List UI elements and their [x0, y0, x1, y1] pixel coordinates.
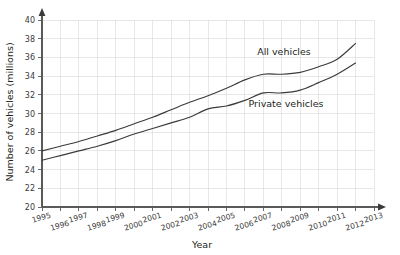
x-tick-label: 2001 — [141, 211, 162, 225]
x-tick-label: 2005 — [215, 211, 236, 225]
x-tick-label: 2012 — [344, 219, 365, 233]
x-axis-title: Year — [191, 239, 212, 250]
x-tick-label: 2009 — [289, 211, 310, 225]
x-tick-labels: 1995199619971998199920002001200220032004… — [31, 211, 384, 233]
x-tick-label: 1995 — [31, 211, 52, 225]
x-tick-label: 2011 — [326, 211, 347, 225]
x-tick-label: 2013 — [363, 211, 384, 225]
x-tick-label: 2004 — [197, 219, 218, 233]
x-tick-label: 1998 — [86, 219, 107, 233]
y-tick-label: 26 — [25, 147, 35, 156]
y-tick-label: 28 — [25, 128, 35, 137]
x-tick-label: 2007 — [252, 211, 273, 225]
series-annotations-group: All vehiclesPrivate vehicles — [249, 46, 324, 109]
series-annotation-private-vehicles: Private vehicles — [249, 98, 324, 109]
x-tick-label: 1997 — [68, 211, 89, 225]
vehicles-line-chart: 2022242628303234363840 19951996199719981… — [0, 0, 400, 255]
x-axis-arrow-icon — [378, 204, 386, 211]
y-tick-label: 36 — [25, 53, 35, 62]
x-tick-label: 1996 — [49, 219, 70, 233]
axis-lines — [39, 8, 386, 210]
y-tick-label: 24 — [25, 166, 35, 175]
x-tick-marks — [42, 207, 374, 211]
y-axis-title: Number of vehicles (millions) — [4, 42, 15, 181]
y-tick-label: 34 — [25, 72, 35, 81]
y-tick-label: 22 — [25, 184, 35, 193]
y-axis-arrow-icon — [39, 8, 46, 16]
x-tick-label: 2003 — [178, 211, 199, 225]
y-tick-labels: 2022242628303234363840 — [25, 16, 35, 212]
x-tick-label: 1999 — [105, 211, 126, 225]
x-tick-label: 2008 — [271, 219, 292, 233]
x-tick-label: 2002 — [160, 219, 181, 233]
x-tick-label: 2006 — [234, 219, 255, 233]
series-annotation-all-vehicles: All vehicles — [257, 46, 311, 57]
x-tick-label: 2010 — [307, 219, 328, 233]
y-tick-label: 30 — [25, 110, 35, 119]
chart-canvas: 2022242628303234363840 19951996199719981… — [0, 0, 400, 255]
y-tick-label: 32 — [25, 91, 35, 100]
y-tick-label: 20 — [25, 203, 35, 212]
y-tick-label: 40 — [25, 16, 35, 25]
series-line-private-vehicles — [42, 63, 356, 160]
y-tick-label: 38 — [25, 35, 35, 44]
x-tick-label: 2000 — [123, 219, 144, 233]
